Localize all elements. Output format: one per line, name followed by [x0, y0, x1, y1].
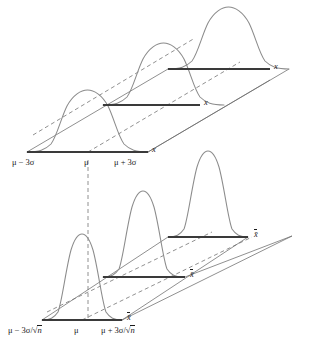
x-bar-glyph: x̄ [127, 313, 131, 322]
axis-endpoint-label-sampling-1: x̄ [127, 313, 131, 322]
axis-endpoint-label-population-2: x [204, 98, 208, 107]
perspective-guides-upper [27, 69, 289, 152]
tick-label-population-center: μ [84, 158, 89, 167]
normal-curve-population-1 [27, 90, 148, 152]
tick-label-sampling-right-text: μ + 3σ/ [101, 325, 126, 335]
axis-endpoint-label-population-1: x [152, 145, 156, 154]
axis-endpoint-label-sampling-3: x̄ [254, 230, 258, 239]
normal-curve-population-2 [103, 43, 224, 105]
x-bar-glyph: x̄ [190, 270, 194, 279]
x-bar-glyph: x̄ [254, 230, 258, 239]
axis-endpoint-label-sampling-2: x̄ [190, 270, 194, 279]
perspective-guides-lower [42, 236, 292, 320]
normal-curve-population-3 [168, 7, 289, 69]
peak-guides-upper [33, 38, 240, 152]
tick-label-sampling-center: μ [74, 326, 79, 335]
tick-label-sampling-right: μ + 3σ/√n [101, 326, 135, 335]
panel-population-distribution [27, 7, 289, 152]
tick-label-population-right: μ + 3σ [114, 158, 136, 167]
tick-label-sampling-left: μ − 3σ/√n [8, 326, 42, 335]
radicand-n: n [37, 326, 41, 335]
statistics-figure [0, 0, 309, 346]
normal-curve-sampling-3 [168, 151, 248, 237]
tick-label-population-left: μ − 3σ [12, 158, 34, 167]
radicand-n: n [130, 326, 134, 335]
axis-endpoint-label-population-3: x [274, 62, 278, 71]
tick-label-sampling-left-text: μ − 3σ/ [8, 325, 33, 335]
normal-curve-sampling-2 [103, 191, 183, 277]
